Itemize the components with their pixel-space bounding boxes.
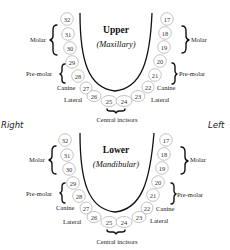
upper-label-lateral-right: Lateral [64, 96, 83, 103]
svg-text:20: 20 [157, 58, 164, 65]
upper-label-canine-right: Canine [57, 84, 76, 91]
svg-text:27: 27 [83, 205, 90, 212]
upper-tooth-26[interactable]: 26 [87, 91, 101, 102]
lower-molar-right-brace-icon [49, 146, 56, 174]
upper-label-premolar-right: Pre-molar [26, 70, 53, 77]
lower-tooth-29[interactable]: 29 [67, 177, 80, 190]
lower-tooth-18[interactable]: 18 [158, 148, 171, 161]
lower-tooth-21[interactable]: 21 [147, 189, 160, 202]
svg-text:31: 31 [64, 152, 71, 159]
lower-tooth-31[interactable]: 31 [61, 149, 74, 162]
upper-tooth-31[interactable]: 31 [62, 28, 75, 41]
svg-text:23: 23 [135, 93, 142, 100]
lower-premolar-left-brace-icon [171, 183, 176, 204]
lower-tooth-28[interactable]: 28 [73, 190, 86, 203]
upper-tooth-22[interactable]: 22 [142, 81, 154, 93]
upper-label-premolar-left: Pre-molar [179, 70, 206, 77]
lower-molar-left-brace-icon [181, 147, 188, 174]
upper-tooth-32[interactable]: 32 [61, 13, 74, 26]
upper-label-molar-left: Molar [191, 36, 208, 43]
upper-label-molar-right: Molar [30, 36, 47, 43]
svg-text:28: 28 [76, 193, 83, 200]
lower-subtitle: (Mandibular) [93, 159, 139, 169]
svg-text:23: 23 [136, 214, 143, 221]
side-label-right: Right [1, 120, 24, 130]
svg-text:18: 18 [162, 30, 169, 37]
upper-tooth-19[interactable]: 19 [158, 41, 171, 54]
lower-title: Lower [103, 145, 130, 155]
svg-text:29: 29 [69, 59, 76, 66]
svg-text:22: 22 [144, 205, 151, 212]
lower-arch: Lower (Mandibular) 32 31 30 29 28 27 26 … [26, 133, 207, 245]
upper-molar-left-brace-icon [182, 26, 189, 53]
upper-label-canine-left: Canine [157, 84, 176, 91]
lower-label-lateral-right: Lateral [63, 218, 82, 225]
upper-tooth-29[interactable]: 29 [66, 56, 79, 69]
svg-text:19: 19 [161, 44, 168, 51]
upper-premolar-right-brace-icon [60, 64, 65, 83]
lower-central-brace-icon [107, 230, 125, 234]
upper-molar-right-brace-icon [50, 25, 57, 55]
svg-text:19: 19 [159, 165, 166, 172]
svg-text:31: 31 [65, 31, 72, 38]
upper-tooth-18[interactable]: 18 [159, 27, 172, 40]
dental-chart: Upper (Maxillary) 32 31 30 29 28 27 26 2… [0, 0, 230, 250]
svg-text:18: 18 [161, 151, 168, 158]
lower-tooth-32[interactable]: 32 [59, 134, 72, 147]
upper-tooth-20[interactable]: 20 [154, 55, 167, 68]
lower-label-canine-left: Canine [156, 205, 175, 212]
svg-text:27: 27 [83, 85, 90, 92]
upper-tooth-23[interactable]: 23 [131, 91, 145, 102]
svg-text:20: 20 [155, 179, 162, 186]
svg-text:32: 32 [62, 137, 69, 144]
lower-premolar-right-brace-icon [60, 183, 65, 203]
svg-text:21: 21 [150, 192, 157, 199]
lower-tooth-24[interactable]: 24 [116, 217, 132, 228]
svg-text:21: 21 [152, 72, 159, 79]
lower-label-premolar-right: Pre-molar [26, 190, 53, 197]
lower-label-canine-right: Canine [56, 204, 75, 211]
upper-tooth-21[interactable]: 21 [149, 69, 162, 82]
side-label-left: Left [208, 120, 225, 130]
upper-label-lateral-left: Lateral [151, 96, 170, 103]
svg-text:25: 25 [106, 219, 113, 226]
svg-text:24: 24 [121, 98, 128, 105]
svg-text:26: 26 [91, 214, 98, 221]
svg-text:32: 32 [64, 16, 71, 23]
lower-label-molar-left: Molar [190, 156, 207, 163]
upper-premolar-left-brace-icon [172, 63, 177, 84]
upper-central-brace-icon [107, 109, 125, 113]
lower-label-lateral-left: Lateral [150, 217, 169, 224]
svg-text:24: 24 [121, 219, 128, 226]
lower-label-premolar-left: Pre-molar [177, 191, 204, 198]
svg-text:22: 22 [145, 84, 152, 91]
upper-tooth-17[interactable]: 17 [161, 13, 174, 26]
svg-text:17: 17 [164, 16, 171, 23]
svg-text:29: 29 [70, 180, 77, 187]
upper-tooth-28[interactable]: 28 [72, 70, 85, 83]
svg-text:30: 30 [67, 45, 74, 52]
lower-tooth-25[interactable]: 25 [101, 217, 117, 228]
upper-subtitle: (Maxillary) [96, 39, 135, 49]
upper-arch: Upper (Maxillary) 32 31 30 29 28 27 26 2… [26, 13, 208, 123]
upper-tooth-25[interactable]: 25 [101, 96, 117, 107]
svg-text:26: 26 [91, 93, 98, 100]
svg-text:25: 25 [106, 98, 113, 105]
lower-tooth-22[interactable]: 22 [141, 202, 153, 214]
upper-title: Upper [103, 25, 130, 35]
upper-tooth-24[interactable]: 24 [116, 96, 132, 107]
lower-tooth-20[interactable]: 20 [152, 176, 165, 189]
lower-label-central: Central incisors [97, 238, 138, 245]
lower-tooth-19[interactable]: 19 [156, 162, 169, 175]
svg-text:17: 17 [163, 137, 170, 144]
svg-text:30: 30 [66, 166, 73, 173]
lower-label-molar-right: Molar [29, 156, 46, 163]
lower-tooth-30[interactable]: 30 [63, 163, 76, 176]
svg-text:28: 28 [75, 73, 82, 80]
upper-tooth-30[interactable]: 30 [64, 42, 77, 55]
upper-label-central: Central incisors [97, 116, 138, 123]
lower-tooth-17[interactable]: 17 [160, 134, 173, 147]
lower-tooth-26[interactable]: 26 [87, 212, 101, 223]
